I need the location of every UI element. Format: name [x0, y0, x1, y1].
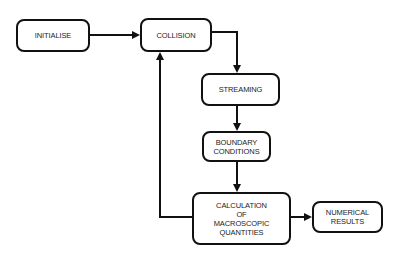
- node-initialise: INITIALISE: [16, 19, 90, 52]
- node-results-label: NUMERICAL RESULTS: [326, 208, 369, 226]
- node-calculation-label: CALCULATION OF MACROSCOPIC QUANTITIES: [214, 201, 270, 237]
- node-numerical-results: NUMERICAL RESULTS: [312, 201, 383, 233]
- node-streaming-label: STREAMING: [219, 85, 263, 94]
- node-boundary-conditions: BOUNDARY CONDITIONS: [202, 131, 271, 162]
- node-initialise-label: INITIALISE: [35, 31, 72, 40]
- arrow-feedback-loop: [160, 54, 192, 217]
- arrow-collision-streaming: [212, 32, 237, 71]
- node-collision-label: COLLISION: [156, 31, 195, 40]
- node-collision: COLLISION: [140, 18, 212, 52]
- node-boundary-label: BOUNDARY CONDITIONS: [213, 138, 259, 156]
- node-calculation: CALCULATION OF MACROSCOPIC QUANTITIES: [192, 192, 291, 245]
- node-streaming: STREAMING: [201, 73, 280, 106]
